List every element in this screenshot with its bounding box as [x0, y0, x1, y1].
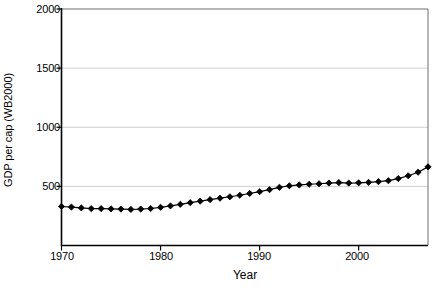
gridlines — [62, 68, 429, 186]
data-line — [62, 167, 429, 210]
chart-figure: GDP per cap (WB2000) Year 2000 1500 1000… — [0, 0, 436, 288]
data-markers — [58, 164, 431, 213]
plot-area — [0, 0, 436, 288]
